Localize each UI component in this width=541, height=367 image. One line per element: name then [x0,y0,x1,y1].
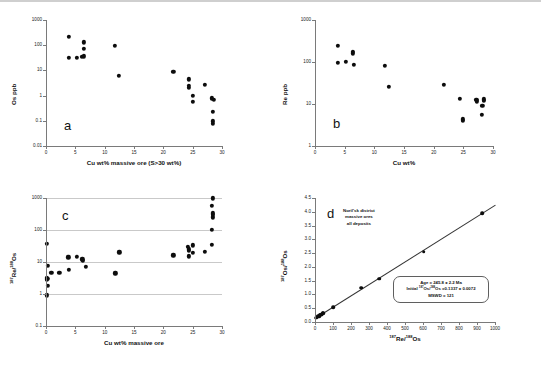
y-tick-label: 100 [16,227,42,232]
y-tick-label: 1000 [16,195,42,200]
y-tick [43,294,46,295]
x-tick [46,326,47,329]
y-tick [312,62,315,63]
x-tick [333,322,334,325]
data-point [336,61,340,65]
x-axis-title-a: Cu wt% massive ore (S>30 wt%) [46,159,222,166]
panel-letter-b: b [333,116,340,131]
y-tick-label: 3.0 [285,236,311,241]
y-axis-title-c: 187Re/188Os [10,253,17,284]
x-tick [163,326,164,329]
y-tick-label: 2.5 [285,250,311,255]
data-point [171,253,175,257]
data-point [171,70,175,74]
y-tick [43,262,46,263]
y-tick-label: 4.0 [285,209,311,214]
data-point [352,62,356,66]
data-point [49,271,53,275]
data-point [210,204,214,208]
data-point [186,254,190,258]
panel-letter-d: d [327,206,334,221]
x-tick [193,326,194,329]
data-point [480,112,484,116]
y-tick-label: 0.1 [16,323,42,328]
gridline-y [46,198,222,199]
y-tick [312,20,315,21]
y-tick [43,121,46,122]
y-tick [312,294,315,295]
data-point [82,54,86,58]
x-tick [105,326,106,329]
x-axis-title-b: Cu wt% [315,159,493,166]
x-tick-label: 25 [451,150,475,155]
data-point [210,242,214,246]
y-tick-label: 3.5 [285,223,311,228]
data-point [383,64,387,68]
x-tick [477,322,478,325]
data-point [186,77,190,81]
plot-area-d [315,198,495,322]
x-tick [345,146,346,149]
x-tick-label: 1000 [483,326,507,331]
x-tick [369,322,370,325]
x-tick-label: 15 [122,330,146,335]
data-point [57,271,61,275]
plot-area-a [46,20,222,146]
data-point [458,96,462,100]
data-point [422,250,426,254]
y-tick [312,212,315,213]
x-tick [315,146,316,149]
y-tick [43,20,46,21]
plot-area-b [315,20,493,146]
y-tick [312,308,315,309]
panel-b: 1000100101051015202530Cu wt%Re ppbb [271,6,541,184]
x-tick-label: 5 [63,330,87,335]
x-axis-title-c: Cu wt% massive ore [46,339,222,346]
y-tick-label: 1000 [16,17,42,22]
data-point [210,110,214,114]
x-tick [193,146,194,149]
data-point [461,119,465,123]
y-tick-label: 10 [16,67,42,72]
x-tick [434,146,435,149]
x-tick-label: 25 [181,330,205,335]
x-tick [493,146,494,149]
y-tick-label: 10 [285,101,311,106]
x-tick [387,322,388,325]
data-point [480,103,484,107]
y-tick-label: 100 [16,42,42,47]
y-tick-label: 1 [16,93,42,98]
x-tick-label: 25 [181,150,205,155]
data-point [74,56,78,60]
x-tick [222,146,223,149]
data-point [191,251,195,255]
panel-letter-a: a [64,118,71,133]
x-tick [105,146,106,149]
x-tick [163,146,164,149]
y-tick [43,198,46,199]
data-point [191,93,195,97]
y-tick [43,45,46,46]
data-point [387,84,391,88]
data-point [351,51,355,55]
x-tick [463,146,464,149]
x-tick-label: 15 [392,150,416,155]
x-tick-label: 20 [151,330,175,335]
x-tick-label: 20 [422,150,446,155]
x-tick [405,322,406,325]
y-tick [312,198,315,199]
y-axis-title-a: Os ppb [10,84,17,105]
y-tick-label: 1000 [285,17,311,22]
data-point [360,286,364,290]
data-point [442,82,446,86]
y-axis-line-a [46,20,47,146]
x-tick [222,326,223,329]
data-point [475,99,479,103]
data-point [113,271,117,275]
x-tick [374,146,375,149]
x-tick-label: 0 [34,150,58,155]
x-tick [351,322,352,325]
y-tick-label: 2.0 [285,264,311,269]
data-point [67,268,71,272]
result-mswd: MSWD = 121 [396,293,486,299]
